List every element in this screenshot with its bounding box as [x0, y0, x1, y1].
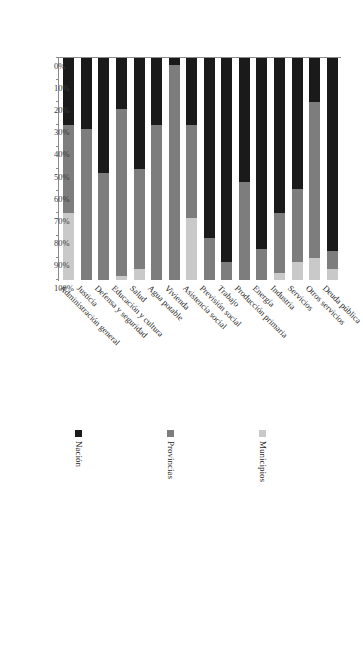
bar-segment-nacion: [98, 58, 109, 173]
bar-row: [292, 58, 303, 280]
axis-tick: [56, 124, 59, 125]
bar-segment-municipios: [274, 273, 285, 280]
axis-tick-label: 70%: [54, 216, 70, 226]
legend-swatch-icon: [260, 430, 267, 437]
axis-tick-label: 80%: [54, 238, 70, 248]
bar-segment-provincias: [274, 213, 285, 273]
axis-tick-label: 10%: [54, 83, 70, 93]
bar-segment-provincias: [169, 65, 180, 280]
bar-row: [239, 58, 250, 280]
bar-segment-nacion: [256, 58, 267, 249]
bar-segment-nacion: [186, 58, 197, 125]
bar-segment-municipios: [134, 269, 145, 280]
legend-label: Municipios: [258, 441, 268, 482]
axis-tick-label: 20%: [54, 105, 70, 115]
bar-row: [169, 58, 180, 280]
axis-tick: [56, 79, 59, 80]
bar-segment-nacion: [169, 58, 180, 65]
bar-segment-nacion: [134, 58, 145, 169]
axis-tick-label: 90%: [54, 260, 70, 270]
bar-row: [204, 58, 215, 280]
plot-area: [60, 58, 341, 280]
legend-swatch-icon: [76, 430, 83, 437]
axis-tick: [56, 101, 59, 102]
bar-segment-nacion: [81, 58, 92, 129]
bar-segment-nacion: [292, 58, 303, 189]
axis-tick-label: 0%: [54, 61, 65, 71]
bar-segment-nacion: [221, 58, 232, 262]
bar-segment-municipios: [327, 269, 338, 280]
axis-tick: [56, 257, 59, 258]
legend-item[interactable]: Municipios: [258, 430, 268, 482]
bar-row: [186, 58, 197, 280]
bar-segment-municipios: [116, 276, 127, 280]
bar-segment-provincias: [151, 125, 162, 280]
legend-swatch-icon: [168, 430, 175, 437]
bar-segment-provincias: [239, 182, 250, 280]
axis-tick-label: 30%: [54, 127, 70, 137]
axis-tick: [56, 146, 59, 147]
bar-segment-municipios: [186, 218, 197, 280]
bar-segment-provincias: [186, 125, 197, 218]
bar-row: [151, 58, 162, 280]
bar-segment-provincias: [98, 173, 109, 280]
bar-segment-municipios: [309, 258, 320, 280]
axis-tick: [56, 190, 59, 191]
bar-segment-provincias: [292, 189, 303, 262]
bar-segment-provincias: [221, 262, 232, 280]
bar-segment-provincias: [327, 251, 338, 269]
bar-segment-provincias: [116, 109, 127, 276]
axis-tick: [56, 279, 59, 280]
bar-segment-provincias: [309, 102, 320, 257]
bar-row: [81, 58, 92, 280]
bar-row: [134, 58, 145, 280]
axis-tick-label: 40%: [54, 149, 70, 159]
axis-tick: [56, 235, 59, 236]
bar-row: [256, 58, 267, 280]
bar-segment-provincias: [204, 238, 215, 280]
axis-tick: [56, 57, 59, 58]
legend-item[interactable]: Nación: [74, 430, 84, 467]
legend-label: Provincias: [166, 441, 176, 479]
axis-tick-label: 50%: [54, 172, 70, 182]
bar-segment-nacion: [239, 58, 250, 182]
axis-tick: [56, 212, 59, 213]
bar-series-group: [60, 58, 341, 280]
bar-segment-municipios: [292, 262, 303, 280]
bar-segment-nacion: [204, 58, 215, 238]
bar-segment-provincias: [134, 169, 145, 269]
bar-segment-nacion: [309, 58, 320, 102]
bar-segment-nacion: [116, 58, 127, 109]
bar-row: [98, 58, 109, 280]
bar-row: [274, 58, 285, 280]
bar-segment-provincias: [256, 249, 267, 280]
legend-label: Nación: [74, 441, 84, 467]
bar-row: [309, 58, 320, 280]
bar-segment-nacion: [327, 58, 338, 251]
axis-tick-label: 60%: [54, 194, 70, 204]
bar-segment-provincias: [81, 129, 92, 280]
bar-segment-nacion: [274, 58, 285, 213]
axis-tick: [56, 168, 59, 169]
rotated-chart-stage: 100%90%80%70%60%50%40%30%20%10%0% Deuda …: [0, 0, 363, 645]
legend-item[interactable]: Provincias: [166, 430, 176, 479]
bar-row: [221, 58, 232, 280]
chart-canvas: 100%90%80%70%60%50%40%30%20%10%0% Deuda …: [0, 0, 363, 645]
bar-segment-nacion: [151, 58, 162, 125]
bar-row: [116, 58, 127, 280]
bar-row: [327, 58, 338, 280]
